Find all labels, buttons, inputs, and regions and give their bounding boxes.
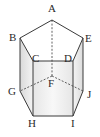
- label-A: A: [48, 2, 56, 14]
- label-E: E: [85, 32, 92, 44]
- prism-diagram: A B C D E F G H I J: [0, 0, 100, 137]
- label-B: B: [9, 31, 16, 43]
- label-G: G: [8, 85, 16, 97]
- label-F: F: [48, 77, 54, 89]
- label-D: D: [64, 52, 72, 64]
- prism-svg: A B C D E F G H I J: [0, 0, 100, 137]
- label-I: I: [71, 117, 75, 129]
- label-C: C: [32, 52, 39, 64]
- label-H: H: [28, 117, 36, 129]
- label-J: J: [87, 88, 92, 100]
